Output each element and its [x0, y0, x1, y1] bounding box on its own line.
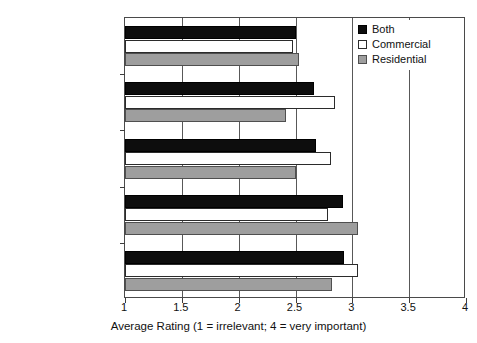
legend-item: Both: [358, 22, 431, 36]
bar-residential: [125, 109, 286, 122]
bar-residential: [125, 222, 358, 235]
bar-both: [125, 195, 343, 208]
x-axis-tick-label: 1: [104, 301, 144, 313]
x-axis-tick-label: 3.5: [388, 301, 428, 313]
legend-item-label: Both: [372, 24, 395, 35]
x-axis-tick-label: 3: [331, 301, 371, 313]
y-axis-labels: RemediationChoice of materialsConstructi…: [0, 0, 120, 343]
legend-item: Residential: [358, 52, 431, 66]
x-axis-tick-label: 2: [218, 301, 258, 313]
x-axis-tick-label: 1.5: [161, 301, 201, 313]
black-square-swatch-icon: [358, 25, 367, 34]
bar-chart: RemediationChoice of materialsConstructi…: [0, 0, 477, 343]
white-square-swatch-icon: [358, 40, 367, 49]
y-axis-tick: [120, 243, 125, 244]
bar-residential: [125, 278, 332, 291]
y-axis-tick: [120, 187, 125, 188]
y-axis-tick: [120, 74, 125, 75]
gray-square-swatch-icon: [358, 55, 367, 64]
y-axis-tick: [120, 130, 125, 131]
bar-commercial: [125, 40, 293, 53]
x-axis-title: Average Rating (1 = irrelevant; 4 = very…: [0, 320, 477, 332]
gridline: [352, 18, 353, 297]
bar-both: [125, 251, 344, 264]
bar-commercial: [125, 208, 328, 221]
bar-commercial: [125, 152, 331, 165]
bar-residential: [125, 166, 296, 179]
bar-commercial: [125, 264, 358, 277]
legend-item-label: Residential: [372, 54, 426, 65]
bar-both: [125, 139, 316, 152]
x-axis-tick-label: 4: [445, 301, 477, 313]
bar-commercial: [125, 96, 335, 109]
legend-item: Commercial: [358, 37, 431, 51]
bar-both: [125, 26, 296, 39]
x-axis-tick-label: 2.5: [275, 301, 315, 313]
bar-both: [125, 82, 314, 95]
legend-item-label: Commercial: [372, 39, 431, 50]
legend: Both Commercial Residential: [355, 20, 434, 70]
bar-residential: [125, 53, 299, 66]
